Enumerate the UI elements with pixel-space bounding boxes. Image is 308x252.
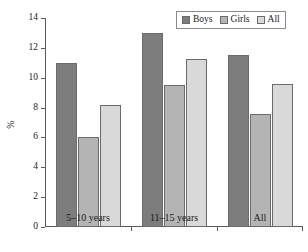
bar-girls: [164, 85, 185, 227]
legend-swatch-icon: [182, 16, 190, 24]
legend-item-girls: Girls: [220, 15, 250, 25]
y-axis-label-text: %: [5, 120, 16, 128]
y-tick-label: 8: [33, 103, 38, 113]
y-tick-mark: [41, 18, 45, 19]
y-tick-mark: [41, 167, 45, 168]
y-tick-label: 6: [33, 133, 38, 143]
y-tick-mark: [41, 137, 45, 138]
y-tick-label: 2: [33, 192, 38, 202]
legend-label: Boys: [193, 15, 213, 25]
y-tick-label: 10: [29, 73, 39, 83]
y-tick-mark: [41, 227, 45, 228]
legend-item-all: All: [257, 15, 280, 25]
bar-boys: [56, 63, 77, 227]
y-tick-mark: [41, 197, 45, 198]
y-tick-label: 4: [33, 163, 38, 173]
bar-all: [186, 59, 207, 227]
legend-swatch-icon: [257, 16, 265, 24]
x-tick-mark-end: [302, 227, 303, 231]
y-tick-label: 14: [29, 13, 39, 23]
legend-item-boys: Boys: [182, 15, 213, 25]
legend-swatch-icon: [220, 16, 228, 24]
x-tick-mark: [217, 227, 218, 231]
bar-all: [272, 84, 293, 227]
bar-chart: % 02468101214 5–10 years11–15 yearsAll B…: [0, 0, 308, 252]
y-tick-label: 12: [29, 43, 39, 53]
legend: BoysGirlsAll: [176, 11, 286, 29]
bar-boys: [228, 55, 249, 227]
bar-all: [100, 105, 121, 227]
x-axis-group-label: 11–15 years: [150, 212, 198, 223]
x-tick-mark: [131, 227, 132, 231]
y-tick-mark: [41, 108, 45, 109]
x-axis-group-label: All: [254, 212, 267, 223]
bar-girls: [250, 114, 271, 227]
y-axis-label: %: [0, 109, 20, 139]
bar-boys: [142, 33, 163, 227]
plot-area: 02468101214: [45, 18, 303, 227]
y-tick-label: 0: [33, 222, 38, 232]
y-axis-line: [45, 18, 46, 227]
y-tick-mark: [41, 48, 45, 49]
y-tick-mark: [41, 78, 45, 79]
legend-label: All: [268, 15, 280, 25]
legend-label: Girls: [231, 15, 250, 25]
x-axis-group-label: 5–10 years: [66, 212, 110, 223]
